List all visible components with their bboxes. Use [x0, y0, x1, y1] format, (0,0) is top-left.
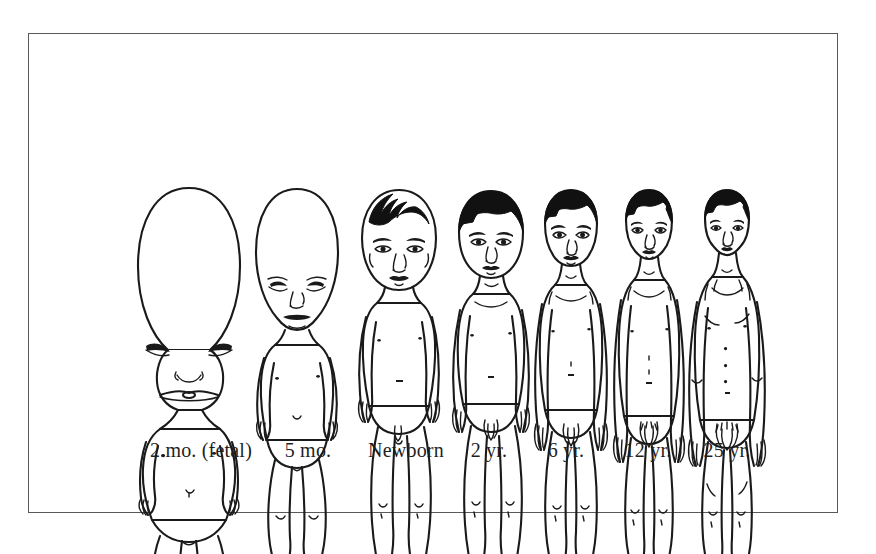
plate-frame: 2 mo. (fetal) 5 mo. Newborn 2 yr. 6 yr. … — [28, 33, 838, 513]
age-label-row: 2 mo. (fetal) 5 mo. Newborn 2 yr. 6 yr. … — [29, 439, 839, 479]
illustration-plate: 2 mo. (fetal) 5 mo. Newborn 2 yr. 6 yr. … — [0, 0, 876, 554]
age-label-25yr: 25 yr. — [667, 439, 787, 462]
